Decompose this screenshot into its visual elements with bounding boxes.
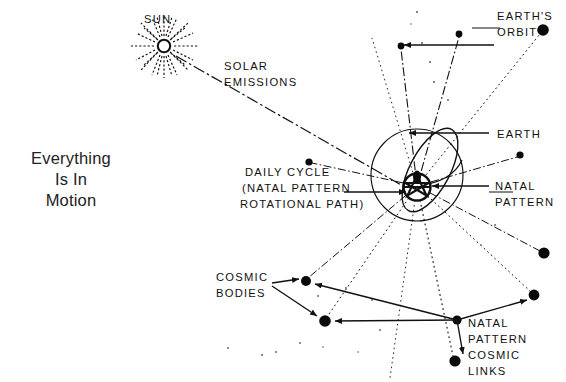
motto-line-1: Everything (31, 149, 111, 167)
motto-line-2: Is In (55, 170, 87, 188)
cosmic-body-dot (529, 290, 540, 301)
label-npcl-line2: PATTERN (468, 333, 527, 345)
cosmic-body-dot (538, 247, 549, 258)
astrology-diagram: SUN SOLAR EMISSIONS EARTH'S ORBIT EARTH … (0, 0, 566, 382)
label-npcl-line3: COSMIC (468, 349, 520, 361)
label-cosmic-bodies-line1: COSMIC (216, 271, 268, 283)
cosmic-body-dot (456, 31, 463, 38)
cosmic-body-dot (301, 276, 311, 286)
cosmic-body-dot (449, 355, 460, 366)
label-npcl-line1: NATAL (468, 317, 509, 329)
cosmic-body-dot (516, 151, 523, 158)
label-cosmic-bodies-line2: BODIES (216, 287, 266, 299)
label-daily-cycle-line1: DAILY CYCLE (245, 166, 330, 178)
label-natal-pattern-line2: PATTERN (495, 196, 554, 208)
cosmic-body-dot (319, 315, 331, 327)
label-earths-orbit-line2: ORBIT (497, 26, 537, 38)
cosmic-body-dot (537, 24, 549, 36)
label-sun: SUN (144, 13, 171, 25)
label-natal-pattern-line1: NATAL (495, 180, 536, 192)
label-solar-emissions-line1: SOLAR (224, 60, 268, 72)
cosmic-body-dot (398, 43, 405, 50)
label-earth: EARTH (497, 128, 541, 140)
label-daily-cycle-line3: ROTATIONAL PATH) (240, 198, 364, 210)
label-daily-cycle-line2: (NATAL PATTERN (242, 182, 351, 194)
motto-line-3: Motion (46, 191, 97, 209)
label-solar-emissions-line2: EMISSIONS (224, 76, 297, 88)
diagram-canvas: SUN SOLAR EMISSIONS EARTH'S ORBIT EARTH … (0, 0, 566, 382)
label-npcl-line4: LINKS (468, 365, 507, 377)
cosmic-body-dot (305, 158, 312, 165)
label-earths-orbit-line1: EARTH'S (497, 10, 553, 22)
